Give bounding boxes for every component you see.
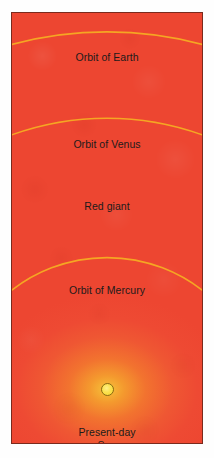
red-giant-diagram: Orbit of Earth Orbit of Venus Red giant … <box>0 0 214 458</box>
diagram-panel: Orbit of Earth Orbit of Venus Red giant … <box>11 12 203 444</box>
orbit-arcs-group <box>12 13 202 443</box>
orbit-earth-arc <box>12 32 202 46</box>
orbit-venus-arc <box>12 118 202 137</box>
orbit-mercury-arc <box>12 258 202 295</box>
present-day-sun-disc <box>101 383 114 396</box>
